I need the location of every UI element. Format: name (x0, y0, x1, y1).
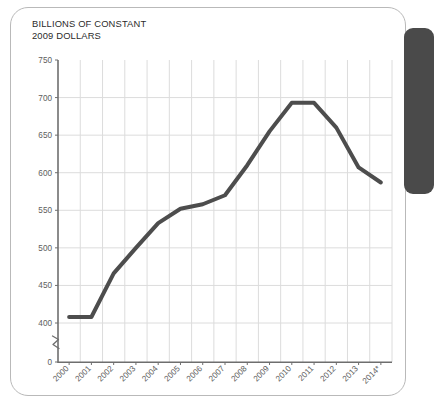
x-tick-label: 2012 (319, 364, 339, 384)
x-tick-label: 2003 (118, 364, 138, 384)
x-tick-label: 2004 (140, 364, 160, 384)
y-tick-label: 500 (38, 244, 52, 253)
x-tick-label: 2006 (185, 364, 205, 384)
x-axis-tick-labels: 2000200120022003200420052006200720082009… (51, 363, 383, 385)
x-tick-label: 2011 (297, 364, 316, 383)
y-tick-label: 650 (38, 131, 52, 140)
x-tick-label: 2013 (341, 364, 361, 384)
x-tick-label: 2007 (207, 364, 227, 384)
vertical-gridlines (80, 60, 392, 362)
x-tick-label: 2000 (51, 364, 71, 384)
x-tick-label: 2010 (274, 364, 294, 384)
y-tick-label: 700 (38, 94, 52, 103)
x-tick-label: 2014* (361, 363, 383, 385)
x-tick-label: 2008 (229, 364, 249, 384)
y-tick-label: 0 (47, 358, 52, 367)
y-tick-label: 450 (38, 281, 52, 290)
y-tick-label: 750 (38, 56, 52, 65)
y-tick-label: 400 (38, 319, 52, 328)
y-axis-tick-labels: 0400450500550600650700750 (38, 56, 52, 367)
y-tick-label: 550 (38, 206, 52, 215)
x-tick-label: 2005 (163, 364, 183, 384)
y-tick-label: 600 (38, 169, 52, 178)
x-tick-label: 2001 (74, 364, 94, 384)
x-tick-label: 2002 (96, 364, 116, 384)
x-tick-label: 2009 (252, 364, 272, 384)
